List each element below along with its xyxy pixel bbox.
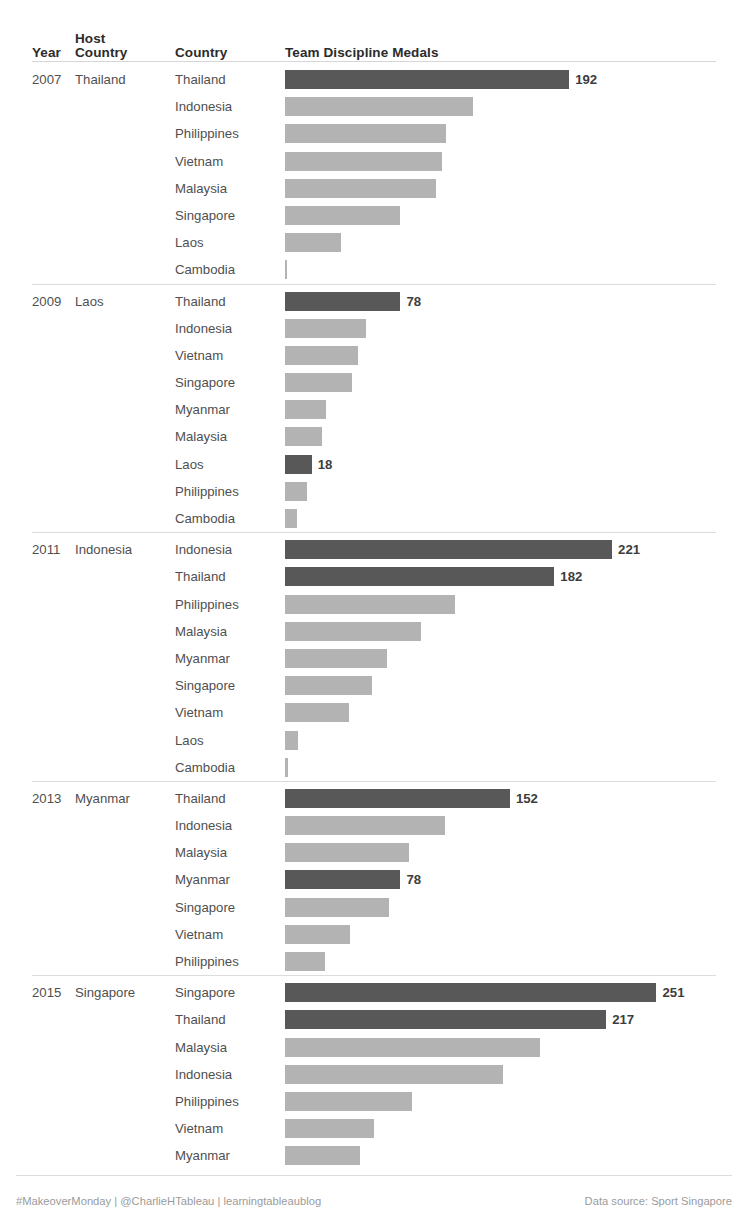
bar[interactable] [285,595,455,614]
table-row[interactable]: Indonesia [16,1061,726,1088]
table-row[interactable]: 2015SingaporeSingapore251 [16,979,726,1006]
table-row[interactable]: Philippines [16,120,726,147]
bar-track [285,175,720,202]
bar[interactable] [285,898,389,917]
table-row[interactable]: Laos [16,727,726,754]
table-row[interactable]: Vietnam [16,342,726,369]
bar[interactable] [285,703,349,722]
table-row[interactable]: 2013MyanmarThailand152 [16,785,726,812]
cell-country: Cambodia [175,754,235,781]
cell-country: Philippines [175,478,239,505]
bar[interactable] [285,816,445,835]
cell-country: Indonesia [175,93,232,120]
table-row[interactable]: Philippines [16,478,726,505]
table-row[interactable]: Cambodia [16,256,726,283]
bar[interactable] [285,233,341,252]
bar-highlighted[interactable] [285,292,400,311]
cell-year: 2007 [32,66,61,93]
bar[interactable] [285,319,366,338]
table-row[interactable]: 2009LaosThailand78 [16,288,726,315]
table-row[interactable]: Philippines [16,1088,726,1115]
cell-country: Indonesia [175,536,232,563]
cell-country: Philippines [175,120,239,147]
table-row[interactable]: Indonesia [16,315,726,342]
table-row[interactable]: Myanmar78 [16,866,726,893]
cell-country: Thailand [175,1006,226,1033]
table-row[interactable]: Philippines [16,948,726,975]
bar[interactable] [285,925,350,944]
bar[interactable] [285,758,288,777]
table-row[interactable]: Singapore [16,894,726,921]
bar[interactable] [285,843,409,862]
table-row[interactable]: Singapore [16,369,726,396]
table-row[interactable]: Laos18 [16,451,726,478]
bar-value-label: 18 [318,455,333,474]
bar-highlighted[interactable] [285,567,554,586]
table-row[interactable]: Vietnam [16,1115,726,1142]
bar[interactable] [285,482,307,501]
table-row[interactable]: Philippines [16,591,726,618]
bar[interactable] [285,509,297,528]
bar[interactable] [285,1092,412,1111]
bar-highlighted[interactable] [285,870,400,889]
bar[interactable] [285,400,326,419]
bar-highlighted[interactable] [285,70,569,89]
year-group: 2011IndonesiaIndonesia221Thailand182Phil… [16,532,726,781]
bar-highlighted[interactable] [285,789,510,808]
table-row[interactable]: Laos [16,229,726,256]
bar[interactable] [285,427,322,446]
bar[interactable] [285,1146,360,1165]
bar[interactable] [285,373,352,392]
table-row[interactable]: Singapore [16,672,726,699]
cell-country: Malaysia [175,423,227,450]
table-row[interactable]: Thailand217 [16,1006,726,1033]
bar[interactable] [285,124,446,143]
bar[interactable] [285,152,442,171]
bar[interactable] [285,622,421,641]
bar[interactable] [285,97,473,116]
bar-track [285,591,720,618]
bar[interactable] [285,952,325,971]
medals-bar-chart: Year Host Country Country Team Disciplin… [0,18,742,1221]
bar-track: 217 [285,1006,720,1033]
bar[interactable] [285,649,387,668]
cell-country: Singapore [175,979,235,1006]
table-row[interactable]: Cambodia [16,754,726,781]
bar[interactable] [285,1065,503,1084]
table-row[interactable]: Cambodia [16,505,726,532]
table-row[interactable]: Vietnam [16,699,726,726]
bar-highlighted[interactable] [285,540,612,559]
table-row[interactable]: Malaysia [16,618,726,645]
table-row[interactable]: Myanmar [16,396,726,423]
bar[interactable] [285,260,287,279]
bar[interactable] [285,731,298,750]
table-row[interactable]: Myanmar [16,1142,726,1169]
table-row[interactable]: Singapore [16,202,726,229]
table-row[interactable]: Malaysia [16,423,726,450]
table-row[interactable]: Vietnam [16,148,726,175]
table-row[interactable]: 2007ThailandThailand192 [16,66,726,93]
bar[interactable] [285,676,372,695]
table-row[interactable]: Vietnam [16,921,726,948]
table-row[interactable]: 2011IndonesiaIndonesia221 [16,536,726,563]
cell-host-country: Thailand [75,66,126,93]
bar-highlighted[interactable] [285,1010,606,1029]
year-group: 2007ThailandThailand192IndonesiaPhilippi… [16,62,726,284]
bar-track [285,423,720,450]
bar[interactable] [285,1119,374,1138]
bar[interactable] [285,1038,540,1057]
bar[interactable] [285,346,358,365]
cell-year: 2009 [32,288,61,315]
bar[interactable] [285,206,400,225]
table-row[interactable]: Indonesia [16,93,726,120]
table-row[interactable]: Myanmar [16,645,726,672]
cell-country: Vietnam [175,1115,223,1142]
table-row[interactable]: Thailand182 [16,563,726,590]
table-row[interactable]: Malaysia [16,1034,726,1061]
table-row[interactable]: Malaysia [16,839,726,866]
bar-highlighted[interactable] [285,455,312,474]
table-row[interactable]: Malaysia [16,175,726,202]
table-row[interactable]: Indonesia [16,812,726,839]
bar-highlighted[interactable] [285,983,656,1002]
bar[interactable] [285,179,436,198]
